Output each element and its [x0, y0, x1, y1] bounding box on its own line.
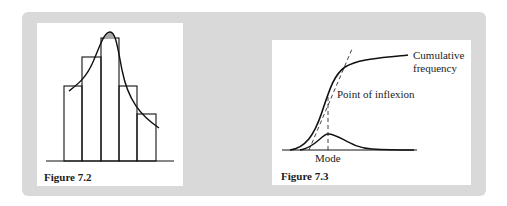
cumulative-label-line1: Cumulative	[413, 49, 464, 61]
histogram-bar-3	[101, 38, 119, 161]
cumulative-label-line2: frequency	[413, 62, 457, 74]
histogram-bar-1	[64, 86, 82, 161]
histogram-figure-7-2	[46, 32, 174, 162]
histogram-bar-4	[119, 86, 137, 161]
mode-label: Mode	[315, 152, 341, 164]
inflexion-label: Point of inflexion	[337, 88, 415, 100]
histogram-bar-2	[82, 57, 101, 161]
figure-7-2-caption: Figure 7.2	[44, 171, 91, 183]
histogram-bar-5	[137, 114, 156, 161]
figure-7-3-caption: Figure 7.3	[281, 170, 328, 182]
cumulative-frequency-curve	[290, 55, 408, 150]
frequency-curve	[300, 134, 414, 150]
